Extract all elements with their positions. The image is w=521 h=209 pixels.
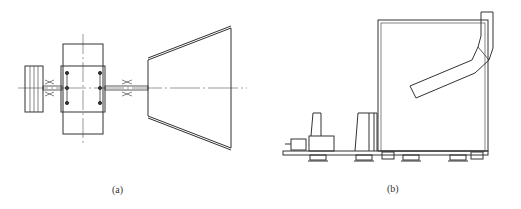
- motor-base: [309, 136, 334, 151]
- vibration-isolators: [308, 155, 468, 161]
- motor: [291, 139, 306, 150]
- technical-diagram: [0, 0, 521, 209]
- panel-a-drawing: [18, 26, 247, 150]
- motor-stand: [311, 113, 321, 136]
- caption-a: (a): [112, 184, 123, 195]
- panel-b-drawing: [283, 12, 493, 161]
- outlet-duct: [410, 12, 493, 98]
- housing: [378, 20, 488, 151]
- caption-b: (b): [387, 183, 399, 194]
